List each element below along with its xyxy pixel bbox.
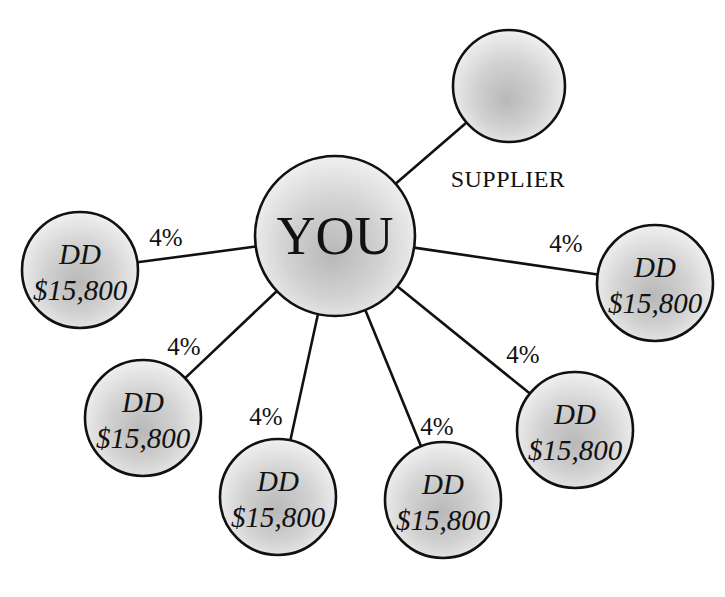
- dd-node-5: [385, 442, 501, 558]
- dd-node-1: [22, 212, 138, 328]
- percent-label: 4%: [549, 230, 582, 257]
- percent-label: 4%: [149, 224, 182, 251]
- percent-label: 4%: [506, 341, 539, 368]
- supplier-node: [453, 30, 565, 142]
- percent-label: 4%: [420, 413, 453, 440]
- dd-amount: $15,800: [231, 501, 326, 533]
- network-diagram: YOUSUPPLIERDD$15,8004%DD$15,8004%DD$15,8…: [0, 0, 725, 597]
- supplier-label: SUPPLIER: [451, 166, 566, 192]
- dd-title: DD: [553, 398, 596, 430]
- percent-label: 4%: [167, 333, 200, 360]
- dd-title: DD: [421, 468, 464, 500]
- you-label: YOU: [277, 206, 394, 266]
- edge-dd-6: [397, 286, 530, 393]
- dd-title: DD: [633, 251, 676, 283]
- dd-amount: $15,800: [96, 422, 191, 454]
- dd-amount: $15,800: [396, 504, 491, 536]
- dd-node-2: [597, 225, 713, 341]
- dd-node-3: [85, 360, 201, 476]
- dd-title: DD: [121, 386, 164, 418]
- dd-title: DD: [58, 238, 101, 270]
- dd-node-6: [517, 372, 633, 488]
- dd-title: DD: [256, 465, 299, 497]
- edge-dd-4: [290, 314, 318, 440]
- dd-amount: $15,800: [608, 287, 703, 319]
- percent-label: 4%: [249, 403, 282, 430]
- dd-amount: $15,800: [33, 274, 128, 306]
- edge-dd-5: [365, 310, 421, 446]
- dd-amount: $15,800: [528, 434, 623, 466]
- dd-node-4: [220, 439, 336, 555]
